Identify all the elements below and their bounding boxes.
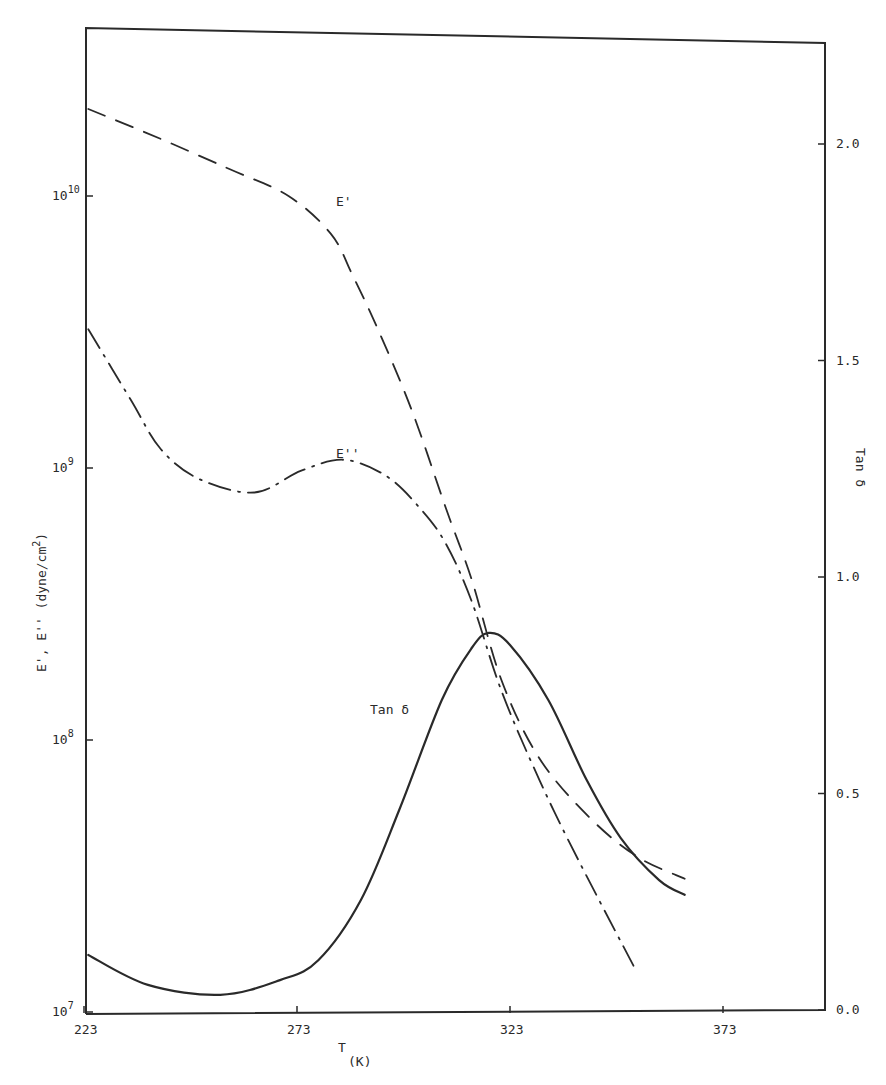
curve-e-prime	[88, 109, 684, 879]
x-tick-label: 273	[287, 1022, 310, 1037]
right-y-axis-title: Tan δ	[853, 448, 868, 487]
svg-text:E', E'' (dyne/cm2): E', E'' (dyne/cm2)	[31, 533, 49, 672]
label-e-double-prime: E''	[336, 446, 359, 461]
label-tan-delta: Tan δ	[370, 702, 409, 717]
right-y-tick-label: 1.5	[836, 353, 859, 368]
left-y-tick-label: 109	[52, 456, 74, 475]
curve-tan-delta	[88, 633, 684, 995]
right-y-tick-label: 0.0	[836, 1002, 859, 1017]
x-axis-title-sub: (K)	[348, 1054, 371, 1069]
curve-e-double-prime	[88, 329, 633, 966]
svg-text:Tan δ: Tan δ	[853, 448, 868, 487]
left-y-tick-label: 107	[52, 1000, 74, 1019]
left-y-axis-title: E', E'' (dyne/cm2)	[31, 533, 49, 672]
left-y-tick-label: 108	[52, 728, 74, 747]
x-axis-title: T	[338, 1040, 346, 1055]
right-y-tick-label: 1.0	[836, 569, 859, 584]
x-tick-label: 373	[713, 1022, 736, 1037]
right-y-tick-label: 0.5	[836, 786, 859, 801]
label-e-prime: E'	[336, 194, 352, 209]
left-y-tick-label: 1010	[52, 184, 80, 203]
x-tick-label: 223	[74, 1022, 97, 1037]
plot-frame	[86, 28, 825, 1014]
right-y-tick-label: 2.0	[836, 136, 859, 151]
x-tick-label: 323	[500, 1022, 523, 1037]
viscoelastic-chart: 1071081091010 0.00.51.01.52.0 2232733233…	[0, 0, 886, 1085]
